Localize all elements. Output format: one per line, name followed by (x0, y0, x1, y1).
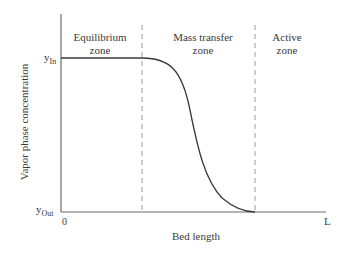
concentration-curve (61, 58, 255, 212)
y-out-label: yOut (36, 203, 54, 218)
breakthrough-diagram: Equilibrium zone Mass transfer zone Acti… (0, 0, 347, 254)
zone-label-equilibrium-2: zone (90, 44, 111, 56)
y-in-label: yIn (44, 51, 56, 66)
zone-label-active-1: Active (272, 31, 301, 43)
zone-label-mass-transfer-1: Mass transfer (173, 31, 233, 43)
zone-label-equilibrium-1: Equilibrium (73, 31, 127, 43)
zone-label-mass-transfer-2: zone (193, 44, 214, 56)
zone-label-active-2: zone (277, 44, 298, 56)
x-axis-title: Bed length (172, 230, 220, 242)
x-origin-label: 0 (62, 216, 67, 227)
y-axis-title: Vapor phase concentration (18, 63, 30, 180)
x-end-label: L (324, 215, 331, 227)
